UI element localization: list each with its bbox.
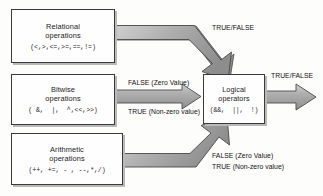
- label-arithmetic-false: FALSE (Zero Value): [212, 152, 273, 159]
- label-output-true-false: TRUE/FALSE: [271, 72, 313, 79]
- box-logical-operators: Logical operators (&&, ||, !): [203, 74, 265, 124]
- box-relational-title: Relational operations: [45, 22, 81, 40]
- label-bitwise-false: FALSE (Zero Value): [128, 79, 189, 86]
- box-logical-title-line1: Logical: [222, 85, 245, 94]
- box-arithmetic-operations: Arithmetic operations (++, +=, - , --,*,…: [11, 133, 123, 185]
- arrow-logical-output: [266, 84, 316, 110]
- label-arithmetic-true: TRUE (Non-zero value): [212, 163, 284, 170]
- box-bitwise-operations: Bitwise operations ( &, |, ^,<<,>>): [11, 74, 115, 125]
- box-logical-symbols: (&&, ||, !): [210, 107, 259, 114]
- box-relational-title-line1: Relational: [46, 22, 80, 31]
- label-relational-true-false: TRUE/FALSE: [212, 24, 254, 31]
- box-bitwise-title: Bitwise operations: [45, 85, 81, 103]
- box-logical-title: Logical operators: [218, 85, 249, 103]
- box-arithmetic-title-line1: Arithmetic: [50, 145, 84, 154]
- box-bitwise-symbols: ( &, |, ^,<<,>>): [28, 107, 97, 114]
- box-arithmetic-symbols: (++, +=, - , --,*,/): [28, 167, 105, 174]
- box-arithmetic-title-line2: operations: [49, 154, 85, 163]
- arrow-bitwise-to-logical: [116, 84, 201, 109]
- box-relational-operations: Relational operations (<,>,<=,>=,==,!=): [11, 9, 115, 63]
- box-bitwise-title-line2: operations: [45, 94, 81, 103]
- box-relational-title-line2: operations: [45, 31, 81, 40]
- box-logical-title-line2: operators: [218, 94, 249, 103]
- arrow-relational-to-logical-shape: [116, 26, 232, 82]
- box-arithmetic-title: Arithmetic operations: [49, 145, 85, 163]
- diagram-canvas: Relational operations (<,>,<=,>=,==,!=) …: [0, 0, 323, 196]
- box-bitwise-title-line1: Bitwise: [51, 85, 75, 94]
- box-relational-symbols: (<,>,<=,>=,==,!=): [30, 44, 96, 51]
- label-bitwise-true: TRUE (Non-zero value): [128, 108, 200, 115]
